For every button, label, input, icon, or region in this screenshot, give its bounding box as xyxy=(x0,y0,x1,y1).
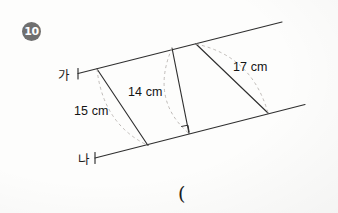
line-label-ga: 가 xyxy=(58,65,70,84)
measure-label-17cm: 17 cm xyxy=(233,60,268,74)
segment-14-arc xyxy=(164,48,189,134)
measure-label-14cm: 14 cm xyxy=(128,85,163,99)
measure-label-15cm: 15 cm xyxy=(74,104,109,118)
answer-parenthesis: ( xyxy=(178,182,185,204)
line-label-na: 나 xyxy=(78,149,90,168)
geometry-figure xyxy=(0,0,338,213)
worksheet-page: 10 가 나 15 cm 14 cm 17 cm ( xyxy=(0,0,338,213)
segment-17-stroke xyxy=(196,44,268,113)
segment-14-stroke xyxy=(172,48,189,134)
